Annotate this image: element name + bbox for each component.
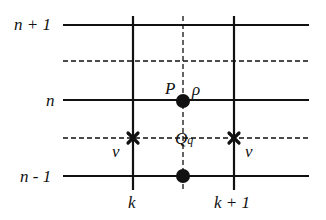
velocity-label-left: v [112,143,120,160]
midpoint-q-subscript: q [187,133,193,147]
velocity-label-right: v [245,143,253,160]
col-label-k: k [128,194,136,211]
row-label-n: n [46,92,55,109]
density-rho-label: ρ [192,81,200,98]
staggered-grid-diagram: n + 1 n n - 1 k k + 1 P ρ Qq v v [0,0,326,220]
point-p-label: P [165,80,175,97]
point-p-dot [176,94,190,108]
midpoint-q-text: Q [175,129,187,148]
point-lower-dot [176,169,190,183]
row-label-n-plus-1: n + 1 [14,16,51,33]
col-label-k-plus-1: k + 1 [214,194,250,211]
midpoint-q-label: Qq [175,130,193,147]
row-label-n-minus-1: n - 1 [20,168,51,185]
